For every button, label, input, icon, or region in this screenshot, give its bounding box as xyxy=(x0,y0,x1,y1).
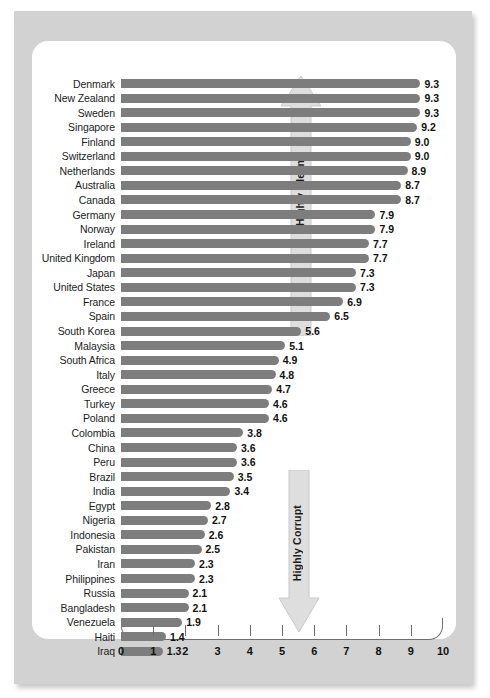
chart-row: South Africa4.9 xyxy=(0,354,490,368)
x-axis-tick xyxy=(411,625,412,636)
bar-value-label: 7.3 xyxy=(360,267,375,279)
category-label: Japan xyxy=(0,267,115,279)
bar xyxy=(121,487,230,496)
category-label: Pakistan xyxy=(0,543,115,555)
bar xyxy=(121,472,234,481)
chart-row: India3.4 xyxy=(0,485,490,499)
category-label: Germany xyxy=(0,209,115,221)
category-label: Indonesia xyxy=(0,529,115,541)
chart-row: Netherlands8.9 xyxy=(0,165,490,179)
bar xyxy=(121,123,417,132)
bar-value-label: 2.1 xyxy=(193,587,208,599)
bar-value-label: 8.7 xyxy=(405,194,420,206)
bar xyxy=(121,195,401,204)
bar xyxy=(121,239,369,248)
bar-value-label: 8.9 xyxy=(412,165,427,177)
bar-value-label: 5.1 xyxy=(289,340,304,352)
bar xyxy=(121,603,189,612)
bar xyxy=(121,79,420,88)
bar xyxy=(121,341,285,350)
chart-row: Pakistan2.5 xyxy=(0,543,490,557)
x-axis-tick xyxy=(153,625,154,636)
chart-row: Norway7.9 xyxy=(0,223,490,237)
category-label: Ireland xyxy=(0,238,115,250)
chart-figure: Highly Clean Highly Corrupt Denmark9.3Ne… xyxy=(0,0,490,698)
category-label: Venezuela xyxy=(0,616,115,628)
bar xyxy=(121,166,408,175)
category-label: Australia xyxy=(0,179,115,191)
x-axis-tick xyxy=(314,625,315,636)
bar-value-label: 4.6 xyxy=(273,412,288,424)
bar-value-label: 7.7 xyxy=(373,252,388,264)
plot-area: Highly Clean Highly Corrupt Denmark9.3Ne… xyxy=(0,0,490,698)
bar-value-label: 7.9 xyxy=(379,223,394,235)
category-label: China xyxy=(0,442,115,454)
bar-value-label: 9.0 xyxy=(415,150,430,162)
chart-row: Turkey4.6 xyxy=(0,398,490,412)
bar-value-label: 2.1 xyxy=(193,602,208,614)
bar-value-label: 6.9 xyxy=(347,296,362,308)
category-label: Iraq xyxy=(0,645,115,657)
bar-value-label: 3.8 xyxy=(247,427,262,439)
bar-value-label: 9.2 xyxy=(421,121,436,133)
category-label: Nigeria xyxy=(0,514,115,526)
bar-value-label: 3.5 xyxy=(238,471,253,483)
category-label: Philippines xyxy=(0,573,115,585)
x-axis-tick-label: 8 xyxy=(367,645,391,658)
bar-value-label: 9.3 xyxy=(424,78,439,90)
chart-row: Colombia3.8 xyxy=(0,427,490,441)
chart-row: Japan7.3 xyxy=(0,267,490,281)
chart-row: Peru3.6 xyxy=(0,456,490,470)
bar-value-label: 2.3 xyxy=(199,558,214,570)
category-label: Malaysia xyxy=(0,340,115,352)
chart-row: Ireland7.7 xyxy=(0,238,490,252)
category-label: New Zealand xyxy=(0,92,115,104)
bar-value-label: 3.4 xyxy=(234,485,249,497)
chart-row: Iran2.3 xyxy=(0,558,490,572)
bar-value-label: 9.3 xyxy=(424,92,439,104)
chart-row: South Korea5.6 xyxy=(0,325,490,339)
category-label: Singapore xyxy=(0,121,115,133)
chart-row: Indonesia2.6 xyxy=(0,529,490,543)
bar xyxy=(121,327,301,336)
chart-row: Nigeria2.7 xyxy=(0,514,490,528)
chart-row: United Kingdom7.7 xyxy=(0,252,490,266)
bar-value-label: 3.6 xyxy=(241,442,256,454)
bar xyxy=(121,181,401,190)
chart-row: Sweden9.3 xyxy=(0,107,490,121)
bar-value-label: 7.7 xyxy=(373,238,388,250)
x-axis-tick-label: 0 xyxy=(109,645,133,658)
chart-row: Germany7.9 xyxy=(0,209,490,223)
chart-row: Canada8.7 xyxy=(0,194,490,208)
bar xyxy=(121,356,279,365)
x-axis-tick-label: 4 xyxy=(238,645,262,658)
bar-value-label: 4.8 xyxy=(280,369,295,381)
bar xyxy=(121,297,343,306)
chart-row: France6.9 xyxy=(0,296,490,310)
category-label: United States xyxy=(0,281,115,293)
category-label: Sweden xyxy=(0,107,115,119)
category-label: Russia xyxy=(0,587,115,599)
category-label: Finland xyxy=(0,136,115,148)
x-axis-tick-label: 3 xyxy=(206,645,230,658)
x-axis-tick xyxy=(218,625,219,636)
category-label: France xyxy=(0,296,115,308)
x-axis-tick-label: 9 xyxy=(399,645,423,658)
category-label: South Korea xyxy=(0,325,115,337)
category-label: Colombia xyxy=(0,427,115,439)
chart-row: Russia2.1 xyxy=(0,587,490,601)
bar xyxy=(121,559,195,568)
bar xyxy=(121,385,272,394)
bar xyxy=(121,370,276,379)
category-label: Netherlands xyxy=(0,165,115,177)
bar xyxy=(121,399,269,408)
bar-value-label: 2.6 xyxy=(209,529,224,541)
x-axis-tick-label: 5 xyxy=(270,645,294,658)
bar-value-label: 2.5 xyxy=(206,543,221,555)
chart-row: Brazil3.5 xyxy=(0,471,490,485)
chart-row: Egypt2.8 xyxy=(0,500,490,514)
category-label: Turkey xyxy=(0,398,115,410)
chart-row: Greece4.7 xyxy=(0,383,490,397)
bar-value-label: 3.6 xyxy=(241,456,256,468)
category-label: Haiti xyxy=(0,631,115,643)
